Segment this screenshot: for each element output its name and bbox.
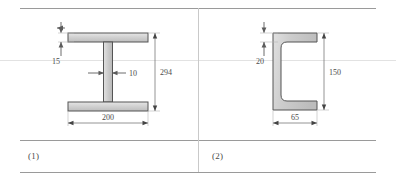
- arrowhead-flange-top: [59, 28, 64, 34]
- arrowhead-chan-width-right: [312, 121, 318, 125]
- arrowhead-height-top: [153, 33, 157, 39]
- arrowhead-chan-width-left: [273, 121, 279, 125]
- arrowhead-chan-flange-bottom: [262, 42, 267, 48]
- figure-cell-2: 20 150 65 (2): [198, 0, 396, 181]
- arrowhead-width-left: [68, 121, 74, 125]
- arrowhead-chan-height-bottom: [322, 105, 326, 111]
- arrowhead-flange-bottom: [59, 42, 64, 48]
- arrowhead-width-right: [143, 121, 149, 125]
- dim-label-chan-flange-width: 65: [291, 113, 299, 122]
- dim-label-chan-overall-height: 150: [329, 68, 341, 77]
- dim-label-web-thickness: 10: [129, 69, 137, 78]
- channel-section-profile: [273, 33, 317, 110]
- figure-caption-2: (2): [212, 151, 223, 161]
- arrowhead-height-bottom: [153, 106, 157, 112]
- dim-label-overall-height: 294: [160, 68, 172, 77]
- i-beam-web: [104, 42, 113, 102]
- figure-caption-1: (1): [28, 151, 39, 161]
- arrowhead-chan-height-top: [322, 33, 326, 39]
- dim-label-flange-width: 200: [102, 113, 114, 122]
- i-beam-bottom-flange: [68, 102, 148, 111]
- arrowhead-chan-flange-top: [262, 28, 267, 34]
- figure-cell-1: 15 10 294 200 (1): [0, 0, 198, 181]
- dim-label-flange-thickness: 15: [52, 57, 60, 66]
- i-beam-drawing: 15 10 294 200: [0, 0, 198, 140]
- channel-drawing: 20 150 65: [198, 0, 396, 140]
- dim-label-chan-flange-thickness: 20: [256, 57, 264, 66]
- i-beam-top-flange: [68, 33, 148, 42]
- figure-table-page: 15 10 294 200 (1): [0, 0, 396, 181]
